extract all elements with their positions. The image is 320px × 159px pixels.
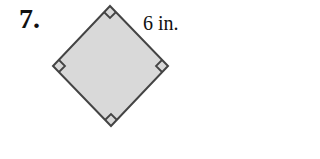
side-length-label: 6 in. — [143, 12, 179, 34]
